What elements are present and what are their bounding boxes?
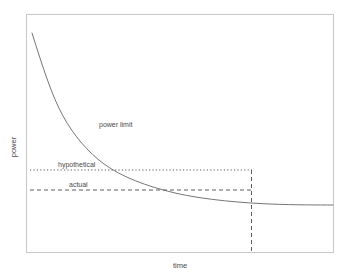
hypothetical-annotation: hypothetical: [58, 161, 96, 169]
actual-annotation: actual: [69, 181, 88, 188]
y-axis-label: power: [9, 136, 18, 157]
chart-figure: power limit hypothetical actual time pow…: [0, 0, 348, 278]
power-limit-annotation: power limit: [99, 121, 133, 129]
chart-canvas: power limit hypothetical actual time pow…: [0, 0, 348, 278]
chart-background: [0, 0, 348, 278]
x-axis-label: time: [173, 261, 187, 270]
